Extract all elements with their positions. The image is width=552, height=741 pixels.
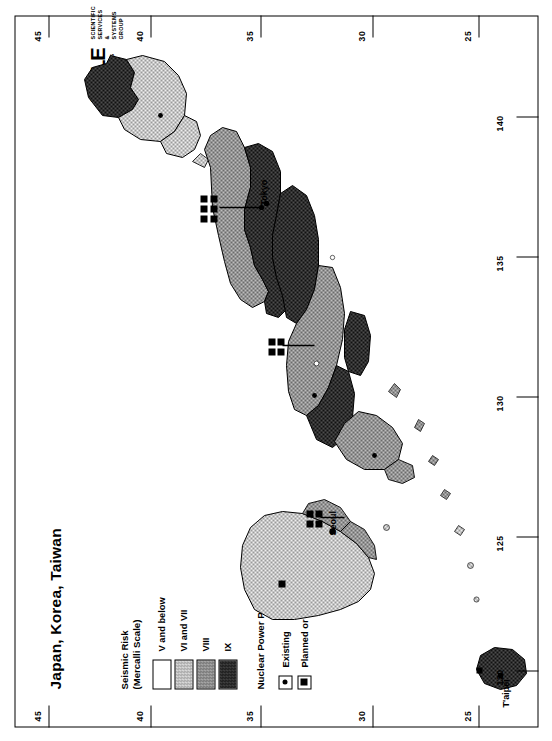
map-graphic — [14, 15, 538, 727]
lon-tick-130 — [516, 396, 538, 397]
lat-tick-40-left — [150, 705, 151, 727]
lon-tick-125 — [516, 536, 538, 537]
lat-label-25-right: 25 — [462, 30, 472, 41]
landmass-kyushu — [334, 411, 414, 483]
lat-label-30-left: 30 — [356, 710, 366, 721]
landmass-korea — [240, 499, 389, 619]
lat-tick-40-right — [150, 15, 151, 37]
lat-tick-30-left — [372, 705, 373, 727]
lon-label-120: 120 — [494, 669, 504, 685]
map-page: Japan, Korea, Taiwan Seismic Risk (Merca… — [0, 0, 552, 741]
map-sheet: Japan, Korea, Taiwan Seismic Risk (Merca… — [0, 0, 552, 741]
city-label-tokyo: Tokyo — [258, 179, 268, 205]
lon-label-140: 140 — [494, 115, 504, 131]
lat-label-45-right: 45 — [32, 30, 42, 41]
lat-tick-25-right — [478, 15, 479, 37]
lon-label-125: 125 — [494, 535, 504, 551]
landmass-shikoku — [344, 311, 370, 375]
lat-label-35-right: 35 — [244, 30, 254, 41]
landmass-hokkaido — [84, 55, 208, 167]
lon-label-135: 135 — [494, 255, 504, 271]
lat-tick-35-left — [260, 705, 261, 727]
lon-tick-135 — [516, 256, 538, 257]
lat-label-30-right: 30 — [356, 30, 366, 41]
lat-label-40-left: 40 — [134, 710, 144, 721]
lat-tick-30-right — [372, 15, 373, 37]
lat-tick-45-right — [48, 15, 49, 37]
lat-label-45-left: 45 — [32, 710, 42, 721]
lon-label-130: 130 — [494, 395, 504, 411]
city-label-seoul: Seoul — [327, 510, 337, 535]
lon-tick-120 — [516, 670, 538, 671]
lat-tick-35-right — [260, 15, 261, 37]
lat-tick-45-left — [48, 705, 49, 727]
lat-tick-25-left — [478, 705, 479, 727]
lat-label-40-right: 40 — [134, 30, 144, 41]
lon-tick-140 — [516, 116, 538, 117]
lat-label-25-left: 25 — [462, 710, 472, 721]
lat-label-35-left: 35 — [244, 710, 254, 721]
